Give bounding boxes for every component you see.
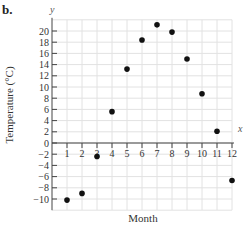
y-tick-label: 16 xyxy=(39,48,49,59)
data-point xyxy=(109,109,115,115)
data-point xyxy=(229,178,235,184)
data-point xyxy=(214,128,220,134)
data-point xyxy=(154,22,160,28)
y-tick-label: 20 xyxy=(39,26,49,37)
data-point xyxy=(64,197,70,203)
y-tick-label: 2 xyxy=(44,126,49,137)
data-point xyxy=(199,91,205,97)
data-point xyxy=(169,29,175,35)
y-tick-label: 4 xyxy=(44,115,49,126)
data-point xyxy=(79,191,85,197)
y-tick-label: 6 xyxy=(44,104,49,115)
data-point xyxy=(94,154,100,160)
y-tick-label: 8 xyxy=(44,93,49,104)
x-tick-label: 5 xyxy=(125,148,130,159)
x-tick-label: 7 xyxy=(155,148,160,159)
x-tick-label: 1 xyxy=(65,148,70,159)
y-tick-label: −10 xyxy=(33,194,49,205)
x-tick-label: 6 xyxy=(140,148,145,159)
y-tick-label: 18 xyxy=(39,37,49,48)
y-tick-label: −6 xyxy=(38,171,49,182)
y-tick-label: 10 xyxy=(39,82,49,93)
x-axis-variable: x xyxy=(237,123,243,134)
data-point xyxy=(184,56,190,62)
y-axis-title: Temperature (°C) xyxy=(3,66,16,144)
data-point xyxy=(124,66,130,72)
x-tick-label: 12 xyxy=(227,148,237,159)
y-axis-variable: y xyxy=(49,4,55,15)
y-tick-label: −2 xyxy=(38,149,49,160)
y-tick-label: 12 xyxy=(39,70,49,81)
y-tick-label: −8 xyxy=(38,182,49,193)
x-tick-label: 2 xyxy=(80,148,85,159)
y-tick-label: −4 xyxy=(38,160,49,171)
y-tick-label: 14 xyxy=(39,59,49,70)
x-tick-label: 9 xyxy=(185,148,190,159)
x-tick-label: 4 xyxy=(110,148,115,159)
y-tick-label: 0 xyxy=(44,138,49,149)
axes xyxy=(52,18,234,210)
x-tick-label: 10 xyxy=(197,148,207,159)
x-axis-title: Month xyxy=(128,212,158,224)
scatter-chart: 20181614121086420−2−4−6−8−10123456789101… xyxy=(0,0,246,229)
x-tick-label: 8 xyxy=(170,148,175,159)
grid xyxy=(52,20,232,210)
x-tick-label: 11 xyxy=(212,148,222,159)
data-points xyxy=(64,22,235,203)
data-point xyxy=(139,37,145,43)
tick-labels: 20181614121086420−2−4−6−8−10123456789101… xyxy=(33,26,237,205)
